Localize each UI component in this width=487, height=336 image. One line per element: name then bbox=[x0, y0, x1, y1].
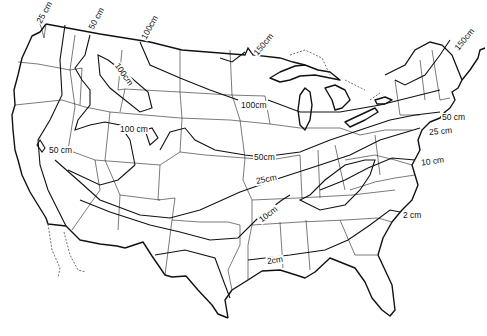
us-map-outline bbox=[0, 0, 487, 336]
isoline-label: 50 cm bbox=[441, 113, 466, 122]
isoline-label: 50cm bbox=[253, 153, 276, 162]
lake-huron bbox=[325, 85, 350, 110]
isoline-label: 100cm bbox=[240, 101, 268, 110]
lake-erie bbox=[345, 108, 378, 127]
lake-michigan bbox=[298, 88, 312, 130]
isoline-label: 50 cm bbox=[48, 146, 73, 155]
isoline-label: 2 cm bbox=[402, 211, 422, 220]
pacific-coast bbox=[12, 24, 125, 248]
isoline-label: 100 cm bbox=[119, 125, 149, 134]
state-borders bbox=[15, 35, 450, 290]
canada-shore bbox=[290, 50, 380, 100]
southern-border bbox=[125, 242, 228, 318]
gulf-coast bbox=[225, 255, 395, 318]
lake-superior bbox=[270, 65, 340, 82]
atlantic-coast bbox=[378, 48, 485, 255]
baja-california bbox=[48, 224, 86, 278]
snowfall-isolines bbox=[37, 25, 450, 298]
northeast-border bbox=[385, 42, 462, 80]
snowfall-contour-map: 25 cm 50 cm 100cm 100cm 150cm 150cm 100c… bbox=[0, 0, 487, 336]
